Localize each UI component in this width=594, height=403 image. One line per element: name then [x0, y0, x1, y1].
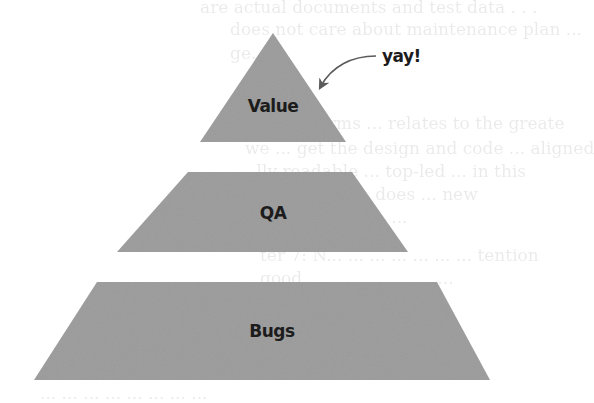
tier-bugs-label: Bugs — [249, 321, 295, 341]
annotation: yay! — [321, 46, 421, 86]
curved-arrow-icon — [321, 56, 376, 86]
annotation-label: yay! — [382, 46, 421, 66]
tier-qa: QA — [117, 172, 408, 252]
tier-value-shape — [200, 33, 346, 142]
tier-value-label: Value — [248, 96, 299, 116]
tier-value: Value — [200, 33, 346, 142]
tier-bugs: Bugs — [34, 282, 490, 380]
tier-qa-label: QA — [260, 203, 288, 223]
